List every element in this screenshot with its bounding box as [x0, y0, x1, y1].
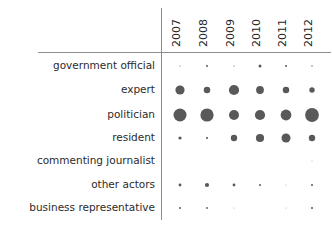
bubble-expert-2012 [309, 87, 314, 92]
column-header-2009: 2009 [224, 19, 237, 47]
bubble-resident-2009 [231, 135, 237, 141]
row-label-expert: expert [121, 83, 155, 95]
bubble-government-official-2007 [179, 65, 180, 66]
bubble-business-representative-2008 [206, 207, 208, 209]
bubble-business-representative-2011 [286, 208, 287, 209]
column-header-group: 200720082009201020112012 [170, 19, 315, 47]
bubble-government-official-2009 [233, 65, 234, 66]
column-header-2007: 2007 [170, 19, 183, 47]
bubble-politician-2007 [174, 109, 187, 122]
bubble-group [174, 65, 319, 210]
bubble-government-official-2011 [285, 65, 287, 67]
bubble-matrix-chart: 200720082009201020112012 government offi… [0, 0, 332, 229]
bubble-resident-2011 [282, 134, 291, 143]
bubble-government-official-2008 [206, 65, 208, 67]
row-label-business-representative: business representative [29, 201, 155, 213]
row-label-group: government officialexpertpoliticianresid… [29, 59, 155, 213]
bubble-commenting-journalist-2012 [312, 161, 313, 162]
bubble-resident-2008 [206, 137, 208, 139]
bubble-resident-2007 [178, 136, 181, 139]
bubble-expert-2010 [256, 86, 264, 94]
bubble-politician-2010 [255, 110, 265, 120]
bubble-other-actors-2012 [311, 184, 313, 186]
bubble-resident-2012 [309, 135, 315, 141]
column-header-2011: 2011 [276, 19, 289, 47]
bubble-other-actors-2011 [286, 185, 287, 186]
row-label-resident: resident [112, 131, 155, 143]
row-label-other-actors: other actors [91, 178, 155, 190]
bubble-business-representative-2009 [234, 208, 235, 209]
bubble-government-official-2010 [259, 65, 262, 68]
bubble-expert-2008 [204, 87, 211, 94]
bubble-politician-2009 [229, 110, 239, 120]
row-label-government-official: government official [53, 59, 155, 71]
bubble-other-actors-2008 [205, 183, 209, 187]
bubble-other-actors-2009 [233, 184, 236, 187]
bubble-politician-2012 [305, 108, 319, 122]
bubble-expert-2009 [229, 85, 239, 95]
row-label-politician: politician [107, 108, 155, 120]
bubble-government-official-2012 [311, 65, 312, 66]
bubble-business-representative-2012 [311, 207, 313, 209]
column-header-2008: 2008 [197, 19, 210, 47]
column-header-2012: 2012 [302, 19, 315, 47]
bubble-business-representative-2007 [179, 207, 181, 209]
row-label-commenting-journalist: commenting journalist [37, 154, 155, 166]
column-header-2010: 2010 [250, 19, 263, 47]
bubble-other-actors-2010 [259, 184, 261, 186]
bubble-politician-2008 [200, 108, 213, 121]
bubble-expert-2007 [175, 85, 184, 94]
bubble-resident-2010 [256, 134, 264, 142]
bubble-politician-2011 [281, 110, 292, 121]
bubble-other-actors-2007 [179, 184, 182, 187]
bubble-expert-2011 [283, 87, 290, 94]
